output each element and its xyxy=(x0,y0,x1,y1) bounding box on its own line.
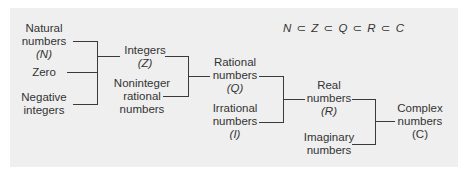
connector-line xyxy=(165,56,188,57)
node-symbol: (R) xyxy=(307,105,352,118)
node-imaginary-numbers: Imaginary numbers xyxy=(304,131,355,157)
subset-formula: N ⊂ Z ⊂ Q ⊂ R ⊂ C xyxy=(283,21,405,35)
connector-line xyxy=(163,96,188,97)
node-noninteger-rational-numbers: Noninteger rational numbers xyxy=(114,77,170,116)
node-label: Irrational xyxy=(213,102,258,115)
node-rational-numbers: Rational numbers (Q) xyxy=(213,56,258,95)
node-label: Rational xyxy=(213,56,258,69)
node-label: Negative xyxy=(21,91,66,104)
node-label: rational xyxy=(114,90,170,103)
node-label: numbers xyxy=(397,115,442,128)
node-symbol: (Q) xyxy=(213,82,258,95)
node-label: Natural xyxy=(22,22,67,35)
node-negative-integers: Negative integers xyxy=(21,91,66,117)
node-label: numbers xyxy=(304,144,355,157)
node-label: numbers xyxy=(213,115,258,128)
connector-line xyxy=(73,41,97,42)
node-integers: Integers (Z) xyxy=(124,44,166,70)
node-label: Real xyxy=(307,79,352,92)
node-irrational-numbers: Irrational numbers (I) xyxy=(213,102,258,141)
connector-line xyxy=(188,76,210,77)
node-real-numbers: Real numbers (R) xyxy=(307,79,352,118)
node-complex-numbers: Complex numbers (C) xyxy=(397,102,442,141)
connector-line xyxy=(73,104,97,105)
node-label: numbers xyxy=(114,103,170,116)
connector-line xyxy=(352,99,375,100)
connector-line xyxy=(375,121,395,122)
node-label: numbers xyxy=(213,69,258,82)
connector-line xyxy=(259,76,283,77)
node-symbol: (C) xyxy=(397,128,442,141)
connector-line xyxy=(97,41,98,105)
node-label: integers xyxy=(21,104,66,117)
node-label: Zero xyxy=(32,66,56,79)
node-zero: Zero xyxy=(32,66,56,79)
node-symbol: (Z) xyxy=(124,57,166,70)
connector-line xyxy=(67,72,97,73)
node-label: Imaginary xyxy=(304,131,355,144)
node-label: numbers xyxy=(307,92,352,105)
node-label: Noninteger xyxy=(114,77,170,90)
node-natural-numbers: Natural numbers (N) xyxy=(22,22,67,61)
connector-line xyxy=(375,99,376,145)
node-symbol: (N) xyxy=(22,48,67,61)
node-symbol: (I) xyxy=(213,128,258,141)
connector-line xyxy=(283,99,305,100)
connector-line xyxy=(352,144,375,145)
connector-line xyxy=(97,56,120,57)
connector-line xyxy=(259,122,283,123)
node-label: numbers xyxy=(22,35,67,48)
node-label: Integers xyxy=(124,44,166,57)
node-label: Complex xyxy=(397,102,442,115)
